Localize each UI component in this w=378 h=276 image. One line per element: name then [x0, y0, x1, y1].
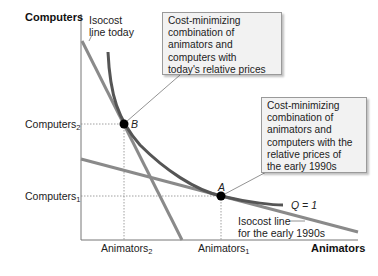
- tick-sub: 2: [148, 247, 152, 256]
- tick-computers2: Computers2: [25, 118, 81, 134]
- callout-line: animators and: [168, 39, 276, 51]
- tick-sub: 1: [245, 247, 249, 256]
- callout-1990s: Cost-minimizing combination of animators…: [261, 97, 367, 173]
- tick-sub: 2: [76, 123, 80, 132]
- label-line: for the early 1990s: [238, 227, 325, 239]
- callout-line: computers with: [168, 52, 276, 64]
- callout-line: the early 1990s: [267, 161, 361, 173]
- callout-line: animators and: [267, 124, 361, 136]
- point-a-label: A: [218, 181, 225, 193]
- callout-pointer-today: [126, 75, 180, 122]
- label-line: Isocost line: [238, 215, 325, 227]
- callout-pointer-1990s: [223, 170, 270, 195]
- tick-sub: 1: [76, 195, 80, 204]
- callout-line: Cost-minimizing: [267, 100, 361, 112]
- tick-base: Animators: [198, 242, 245, 254]
- isocost-1990s-label: Isocost line for the early 1990s: [238, 215, 325, 239]
- callout-line: Cost-minimizing: [168, 15, 276, 27]
- x-axis-title: Animators: [311, 242, 365, 254]
- tick-base: Computers: [25, 118, 76, 130]
- isoquant-label: Q = 1: [291, 199, 317, 211]
- callout-line: today's relative prices: [168, 64, 276, 76]
- callout-today: Cost-minimizing combination of animators…: [162, 12, 282, 75]
- tick-computers1: Computers1: [25, 190, 81, 206]
- callout-line: computers with the: [267, 137, 361, 149]
- point-b: [120, 120, 129, 129]
- isocost-today-label: Isocost line today: [89, 14, 134, 38]
- tick-base: Computers: [25, 190, 76, 202]
- callout-line: combination of: [168, 27, 276, 39]
- label-line: Isocost: [89, 14, 134, 26]
- tick-animators1: Animators1: [198, 242, 249, 258]
- y-axis-title: Computers: [25, 11, 83, 23]
- label-line: line today: [89, 26, 134, 38]
- tick-base: Animators: [101, 242, 148, 254]
- callout-line: relative prices of: [267, 149, 361, 161]
- tick-animators2: Animators2: [101, 242, 152, 258]
- callout-line: combination of: [267, 112, 361, 124]
- point-b-label: B: [131, 118, 138, 130]
